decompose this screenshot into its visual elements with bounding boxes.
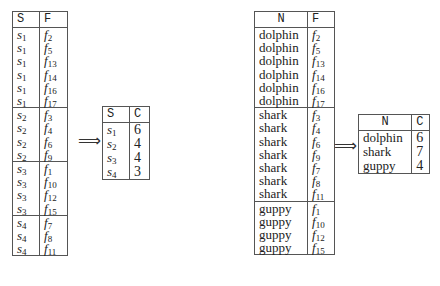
cell-s: s1	[103, 123, 130, 138]
table-row: sharkf3	[255, 108, 335, 122]
cell-s: s1	[13, 94, 40, 108]
table-row: s1f2	[13, 28, 68, 42]
table-row: dolphin6	[359, 131, 430, 146]
implies-arrow-left: ⟹	[78, 131, 101, 150]
table-row: dolphinf13	[255, 54, 335, 67]
header-n: N	[255, 12, 308, 28]
table-row: shark7	[359, 145, 430, 159]
table-row: guppy4	[359, 159, 430, 174]
cell-n: dolphin	[255, 68, 308, 81]
cell-c: 4	[130, 151, 150, 165]
header-c: C	[130, 107, 150, 123]
header-n: N	[359, 115, 412, 131]
cell-f: f3	[308, 108, 335, 122]
table-row: guppyf1	[255, 201, 335, 215]
cell-f: f17	[40, 94, 68, 108]
table-row: s2f9	[13, 148, 68, 162]
table-row: s1f17	[13, 94, 68, 108]
table-n-f: N F dolphinf2dolphinf5dolphinf13dolphinf…	[254, 11, 335, 255]
table-row: dolphinf17	[255, 94, 335, 108]
cell-n: dolphin	[255, 94, 308, 108]
table-row: sharkf11	[255, 187, 335, 201]
cell-f: f15	[308, 241, 335, 255]
cell-f: f9	[40, 148, 68, 162]
cell-c: 7	[412, 145, 430, 159]
cell-c: 4	[412, 159, 430, 174]
cell-n: shark	[255, 108, 308, 122]
cell-s: s4	[13, 242, 40, 256]
cell-f: f2	[308, 28, 335, 42]
cell-n: guppy	[359, 159, 412, 174]
cell-c: 3	[130, 165, 150, 180]
table-row: dolphinf14	[255, 68, 335, 81]
cell-s: s4	[103, 165, 130, 180]
cell-n: dolphin	[255, 28, 308, 42]
cell-s: s4	[13, 215, 40, 229]
table-n-c: N C dolphin6shark7guppy4	[358, 114, 430, 174]
table-s-f: S F s1f2s1f5s1f13s1f14s1f16s1f17s2f3s2f4…	[12, 11, 68, 256]
cell-n: shark	[359, 145, 412, 159]
header-f: F	[40, 12, 68, 28]
table-row: s43	[103, 165, 150, 180]
table-row: s16	[103, 123, 150, 138]
header-f: F	[308, 12, 335, 28]
cell-n: guppy	[255, 241, 308, 255]
cell-f: f7	[40, 215, 68, 229]
table-row: s34	[103, 151, 150, 165]
cell-f: f1	[40, 162, 68, 176]
table-row: s4f11	[13, 242, 68, 256]
cell-n: guppy	[255, 201, 308, 215]
cell-f: f15	[40, 202, 68, 216]
cell-f: f11	[40, 242, 68, 256]
cell-s: s3	[13, 162, 40, 176]
cell-c: 6	[412, 131, 430, 146]
table-row: s24	[103, 137, 150, 151]
cell-s: s3	[13, 202, 40, 216]
table-row: guppyf15	[255, 241, 335, 255]
table-row: sharkf4	[255, 121, 335, 134]
cell-n: shark	[255, 121, 308, 134]
cell-n: dolphin	[359, 131, 412, 146]
cell-f: f2	[40, 28, 68, 42]
cell-n: shark	[255, 135, 308, 148]
implies-arrow-right: ⟹	[334, 136, 357, 155]
table-row: dolphinf2	[255, 28, 335, 42]
cell-n: dolphin	[255, 54, 308, 67]
table-row: s2f3	[13, 108, 68, 122]
cell-f: f3	[40, 108, 68, 122]
cell-n: shark	[255, 187, 308, 201]
cell-f: f17	[308, 94, 335, 108]
cell-s: s3	[103, 151, 130, 165]
cell-c: 4	[130, 137, 150, 151]
table-row: s4f7	[13, 215, 68, 229]
cell-f: f1	[308, 201, 335, 215]
header-s: S	[103, 107, 130, 123]
cell-f: f11	[308, 187, 335, 201]
table-row: sharkf6	[255, 135, 335, 148]
cell-s: s2	[13, 108, 40, 122]
table-s-c: S C s16s24s34s43	[102, 106, 150, 180]
table-row: s3f15	[13, 202, 68, 216]
cell-c: 6	[130, 123, 150, 138]
header-c: C	[412, 115, 430, 131]
table-row: s3f1	[13, 162, 68, 176]
cell-s: s2	[103, 137, 130, 151]
header-s: S	[13, 12, 40, 28]
cell-s: s1	[13, 28, 40, 42]
cell-s: s2	[13, 148, 40, 162]
